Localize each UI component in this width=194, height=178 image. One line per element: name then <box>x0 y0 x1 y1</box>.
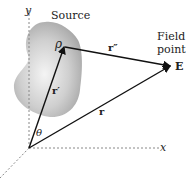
r-label: r <box>99 106 105 117</box>
field-point-label-1: Field <box>157 30 185 43</box>
r-prime-label: r′ <box>52 85 60 96</box>
field-point-symbol: E <box>175 60 183 73</box>
rho-label: ρ <box>54 37 62 51</box>
source-label: Source <box>51 9 90 22</box>
r-double-prime-label: r″ <box>108 42 118 53</box>
x-axis-label: x <box>160 141 167 154</box>
field-point-diagram: y Source ρ r″ Field point E r′ r θ x <box>0 0 194 178</box>
source-blob <box>14 22 82 117</box>
y-axis-label: y <box>24 4 32 17</box>
theta-label: θ <box>36 127 42 138</box>
z-axis <box>0 148 29 178</box>
field-point-label-2: point <box>157 43 186 56</box>
